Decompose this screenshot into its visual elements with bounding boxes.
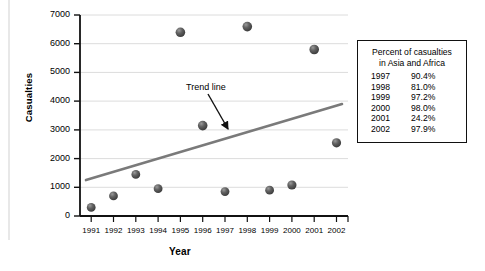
legend-percent: 24.2% bbox=[411, 113, 457, 124]
legend-row: 2002 97.9% bbox=[362, 124, 462, 135]
legend-box: Percent of casualties in Asia and Africa… bbox=[357, 40, 467, 143]
data-point bbox=[309, 45, 319, 55]
legend-row: 1997 90.4% bbox=[362, 71, 462, 82]
y-tick-1000: 1000 bbox=[36, 181, 70, 191]
legend-year: 1999 bbox=[371, 92, 411, 103]
y-tick-5000: 5000 bbox=[36, 66, 70, 76]
y-tick-6000: 6000 bbox=[36, 38, 70, 48]
data-point bbox=[287, 180, 296, 189]
data-point bbox=[87, 203, 96, 212]
legend-heading: Percent of casualties in Asia and Africa bbox=[362, 47, 462, 68]
legend-year: 1998 bbox=[371, 82, 411, 93]
data-point bbox=[221, 187, 230, 196]
legend-percent: 97.9% bbox=[411, 124, 457, 135]
casualties-scatter-chart: 7000 6000 5000 4000 3000 2000 1000 0 199… bbox=[0, 0, 485, 271]
y-tick-4000: 4000 bbox=[36, 95, 70, 105]
legend-row: 2001 24.2% bbox=[362, 113, 462, 124]
legend-heading-line2: in Asia and Africa bbox=[362, 58, 462, 69]
y-tick-3000: 3000 bbox=[36, 124, 70, 134]
legend-year: 2000 bbox=[371, 103, 411, 114]
data-point bbox=[109, 192, 118, 201]
legend-row: 1999 97.2% bbox=[362, 92, 462, 103]
x-tick-2002: 2002 bbox=[324, 226, 350, 235]
gridlines bbox=[80, 15, 348, 187]
trend-line bbox=[86, 104, 342, 180]
y-axis-title: Casualties bbox=[23, 58, 34, 138]
y-tick-7000: 7000 bbox=[36, 9, 70, 19]
legend-row: 1998 81.0% bbox=[362, 82, 462, 93]
legend-year: 2002 bbox=[371, 124, 411, 135]
y-tick-0: 0 bbox=[36, 210, 70, 220]
legend-heading-line1: Percent of casualties bbox=[362, 47, 462, 58]
y-tick-2000: 2000 bbox=[36, 153, 70, 163]
data-point bbox=[154, 184, 163, 193]
legend-row: 2000 98.0% bbox=[362, 103, 462, 114]
trend-line-annotation-label: Trend line bbox=[186, 82, 226, 92]
trend-annotation-arrow bbox=[208, 94, 228, 129]
data-point bbox=[265, 186, 274, 195]
legend-percent: 81.0% bbox=[411, 82, 457, 93]
legend-percent: 97.2% bbox=[411, 92, 457, 103]
data-point bbox=[332, 138, 341, 147]
data-point bbox=[131, 170, 140, 179]
x-axis-title: Year bbox=[0, 246, 360, 257]
legend-percent: 98.0% bbox=[411, 103, 457, 114]
data-point bbox=[198, 121, 208, 131]
data-point bbox=[176, 28, 186, 38]
legend-percent: 90.4% bbox=[411, 71, 457, 82]
legend-year: 2001 bbox=[371, 113, 411, 124]
data-point bbox=[243, 22, 253, 32]
legend-year: 1997 bbox=[371, 71, 411, 82]
